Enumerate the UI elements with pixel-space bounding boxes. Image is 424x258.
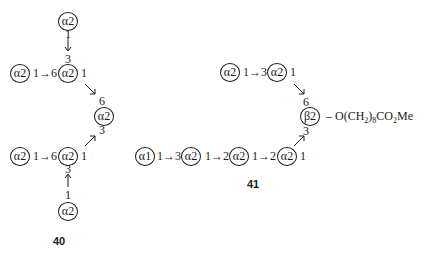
sugar-node-alpha2: α2 bbox=[10, 64, 30, 83]
link-position: 1 bbox=[300, 150, 306, 162]
arrow-down-icon bbox=[62, 38, 74, 52]
sugar-node-alpha2: α2 bbox=[58, 64, 78, 83]
compound-label: 41 bbox=[247, 178, 259, 190]
link-position: 1 bbox=[81, 67, 87, 79]
link-position: 3 bbox=[99, 124, 105, 136]
linkage-label: 1→3 bbox=[157, 150, 181, 162]
compound-label: 40 bbox=[53, 235, 65, 247]
link-position: 1 bbox=[290, 66, 296, 78]
arrow-down-right-icon bbox=[85, 84, 97, 96]
sugar-node-alpha2: α2 bbox=[181, 147, 201, 166]
link-position: 1 bbox=[81, 150, 87, 162]
arrow-up-icon bbox=[62, 174, 74, 188]
linkage-label: 1→6 bbox=[33, 150, 57, 162]
linkage-label: 1→3 bbox=[243, 66, 267, 78]
aglycone-label: – O(CH2)8CO2Me bbox=[326, 110, 413, 127]
link-position: 1 bbox=[65, 189, 71, 201]
sugar-node-alpha2: α2 bbox=[229, 147, 249, 166]
sugar-node-alpha1: α1 bbox=[135, 147, 155, 166]
arrow-up-right-icon bbox=[85, 136, 97, 148]
link-position: 6 bbox=[99, 95, 105, 107]
linkage-label: 1→2 bbox=[252, 150, 276, 162]
sugar-node-alpha2-bottom: α2 bbox=[58, 202, 78, 221]
sugar-node-alpha2: α2 bbox=[277, 147, 297, 166]
linkage-label: 1→6 bbox=[33, 67, 57, 79]
sugar-node-alpha2: α2 bbox=[220, 63, 240, 82]
sugar-node-alpha2: α2 bbox=[10, 147, 30, 166]
sugar-node-alpha2: α2 bbox=[267, 63, 287, 82]
arrow-up-right-icon bbox=[294, 136, 306, 148]
linkage-label: 1→2 bbox=[205, 150, 229, 162]
